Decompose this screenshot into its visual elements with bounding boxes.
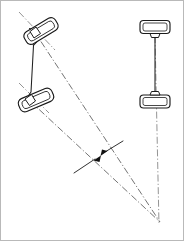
dimension-leader-upper (105, 141, 123, 152)
rear-top-wheel-outline (140, 21, 170, 34)
front-inner-steer-radius-line (30, 101, 160, 222)
front-right-wheel-outline (17, 87, 56, 114)
rear-bottom-wheel-hub (150, 92, 160, 96)
steering-geometry-diagram (0, 0, 184, 241)
front-right-steered-wheel (17, 87, 56, 114)
rear-bottom-wheel-outline (140, 95, 170, 108)
rear-axle-centerline (155, 36, 159, 225)
diagram-canvas (0, 0, 184, 241)
rear-top-wheel-hub (150, 34, 160, 38)
dimension-arrowhead-upper (101, 150, 108, 157)
dimension-leader-lower (74, 159, 95, 173)
rear-bottom-wheel (140, 92, 170, 109)
front-outer-steer-radius-line (34, 31, 160, 222)
rear-top-wheel (140, 21, 170, 38)
projection-line-group (19, 12, 160, 225)
offset-dimension-indicator (74, 141, 123, 173)
